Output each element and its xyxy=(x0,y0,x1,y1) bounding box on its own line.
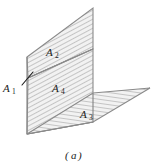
caption-open-paren: ( xyxy=(65,149,70,162)
figure-caption: ( a ) xyxy=(65,149,82,162)
label-a2-subscript: 2 xyxy=(55,51,59,60)
label-a2-base: A xyxy=(45,46,53,58)
label-a1-subscript: 1 xyxy=(12,87,16,96)
geometry-diagram: A 1 A 2 A 4 A 3 ( a ) xyxy=(0,0,157,167)
figure-container: A 1 A 2 A 4 A 3 ( a ) xyxy=(0,0,157,167)
label-a1-base: A xyxy=(2,82,10,94)
caption-letter: a xyxy=(71,149,77,161)
label-a3-subscript: 3 xyxy=(89,113,93,122)
label-a4-base: A xyxy=(51,82,59,94)
label-a1: A 1 xyxy=(2,82,16,96)
label-a3-base: A xyxy=(79,108,87,120)
label-a4-subscript: 4 xyxy=(61,87,65,96)
caption-close-paren: ) xyxy=(77,149,82,162)
